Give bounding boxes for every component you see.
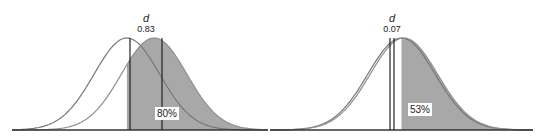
percent-label: 80% [157, 108, 177, 119]
d-value: 0.83 [137, 24, 155, 34]
percent-label: 53% [410, 104, 430, 115]
d-symbol: d [143, 12, 150, 24]
d-symbol: d [389, 12, 396, 24]
panel-d-0-07: d 0.07 53% [270, 12, 533, 130]
panel-d-0-83: d 0.83 80% [12, 12, 268, 130]
effect-size-figure: d 0.83 80% d 0.07 53% [0, 0, 541, 138]
shaded-area [127, 38, 268, 130]
d-value: 0.07 [383, 24, 401, 34]
